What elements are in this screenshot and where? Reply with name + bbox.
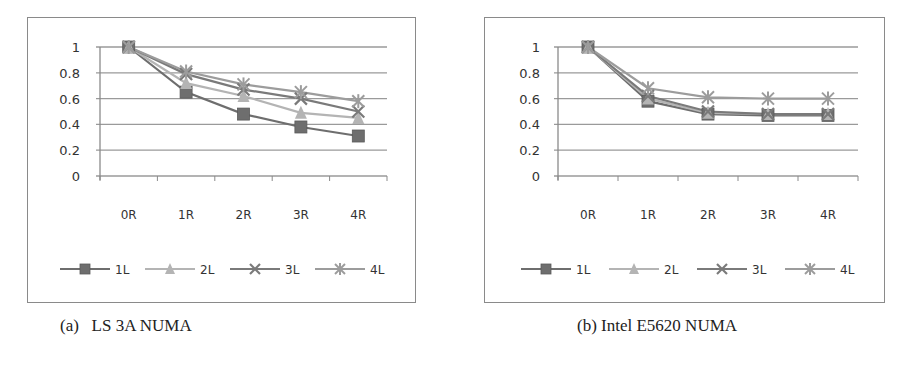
legend-label: 4L: [840, 263, 855, 277]
legend: 1L2L3L4L: [521, 263, 855, 277]
x-tick-label: 1R: [178, 208, 194, 222]
legend-label: 1L: [576, 263, 591, 277]
legend-label: 4L: [370, 263, 385, 277]
subfigure-caption-a: (a) LS 3A NUMA: [60, 316, 192, 336]
chart-panel-ls3a: 00.20.40.60.810R1R2R3R4R1L2L3L4L: [27, 17, 416, 303]
y-tick-label: 0.8: [59, 66, 80, 81]
square-marker-icon: [295, 121, 307, 133]
line-chart-intel: 00.20.40.60.810R1R2R3R4R1L2L3L4L: [485, 18, 886, 304]
legend-label: 1L: [115, 263, 130, 277]
y-tick-label: 0.2: [59, 143, 80, 158]
square-marker-icon: [541, 264, 551, 274]
series-line-1L: [588, 47, 828, 115]
legend-item-3L: 3L: [230, 263, 300, 277]
y-tick-label: 1: [72, 40, 80, 55]
legend-item-4L: 4L: [315, 263, 385, 277]
x-tick-label: 1R: [640, 208, 656, 222]
x-tick-label: 2R: [700, 208, 716, 222]
legend-item-1L: 1L: [521, 263, 591, 277]
y-tick-label: 0.4: [519, 117, 540, 132]
x-tick-label: 3R: [760, 208, 776, 222]
y-tick-label: 0.2: [519, 143, 540, 158]
x-tick-label: 4R: [350, 208, 366, 222]
subfigure-caption-b: (b) Intel E5620 NUMA: [577, 316, 737, 336]
x-tick-label: 4R: [820, 208, 836, 222]
chart-panel-intel: 00.20.40.60.810R1R2R3R4R1L2L3L4L: [484, 17, 885, 303]
legend-label: 3L: [752, 263, 767, 277]
legend-item-1L: 1L: [60, 263, 130, 277]
x-tick-label: 2R: [236, 208, 252, 222]
square-marker-icon: [238, 108, 250, 120]
y-tick-label: 1: [532, 40, 540, 55]
series-markers-2L: [582, 40, 834, 120]
line-chart-ls3a: 00.20.40.60.810R1R2R3R4R1L2L3L4L: [28, 18, 417, 304]
square-marker-icon: [80, 264, 90, 274]
square-marker-icon: [352, 130, 364, 142]
y-tick-label: 0: [72, 169, 80, 184]
x-tick-label: 3R: [293, 208, 309, 222]
legend-item-3L: 3L: [697, 263, 767, 277]
y-tick-label: 0.6: [59, 92, 80, 107]
x-tick-label: 0R: [580, 208, 596, 222]
x-tick-label: 0R: [121, 208, 137, 222]
y-tick-label: 0.4: [59, 117, 80, 132]
y-tick-label: 0.6: [519, 92, 540, 107]
legend-item-2L: 2L: [609, 263, 679, 277]
legend-item-4L: 4L: [785, 263, 855, 277]
legend-item-2L: 2L: [145, 263, 215, 277]
y-tick-label: 0: [532, 169, 540, 184]
legend-label: 3L: [285, 263, 300, 277]
legend-label: 2L: [664, 263, 679, 277]
y-tick-label: 0.8: [519, 66, 540, 81]
legend-label: 2L: [200, 263, 215, 277]
legend: 1L2L3L4L: [60, 263, 385, 277]
